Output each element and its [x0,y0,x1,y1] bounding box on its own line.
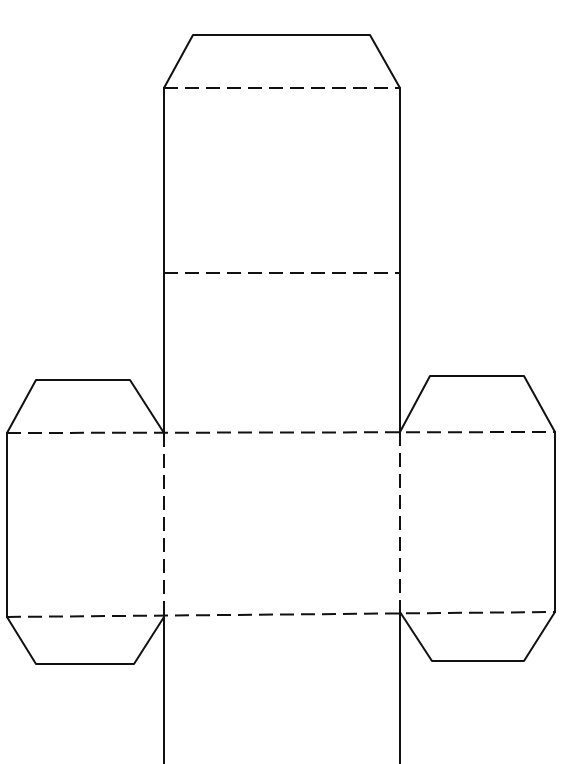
top-face [164,88,400,273]
left-bottom-flap [7,617,164,664]
center-face [164,433,400,615]
top-flap [164,35,400,88]
right-face [400,432,555,612]
right-bottom-flap [400,612,555,661]
right-top-flap [400,376,555,432]
box-net-diagram [0,0,564,764]
fold-center-top [7,432,555,433]
left-top-flap [7,380,164,433]
left-face [7,433,164,617]
upper-middle-face [164,273,400,433]
faces-layer [7,88,555,764]
bottom-face [164,615,400,764]
